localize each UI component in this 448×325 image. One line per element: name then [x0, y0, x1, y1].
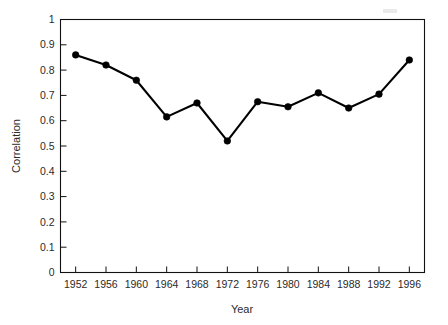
x-tick-label: 1988: [337, 278, 361, 290]
x-tick-label: 1992: [367, 278, 391, 290]
scan-artifact-speck: [383, 9, 397, 13]
x-tick-label: 1964: [155, 278, 179, 290]
y-axis-title: Correlation: [10, 119, 22, 173]
data-point-marker: [103, 62, 110, 69]
y-tick-label: 0.7: [40, 89, 55, 101]
x-tick-label: 1956: [94, 278, 118, 290]
data-point-marker: [194, 100, 201, 107]
x-tick-label: 1952: [64, 278, 88, 290]
data-point-marker: [224, 138, 231, 145]
x-tick-label: 1972: [216, 278, 240, 290]
y-tick-label: 1: [49, 13, 55, 25]
y-tick-label: 0.3: [40, 190, 55, 202]
y-tick-label: 0: [49, 266, 55, 278]
data-point-marker: [315, 90, 322, 97]
x-tick-label: 1960: [125, 278, 149, 290]
x-tick-label: 1976: [246, 278, 270, 290]
x-axis-title: Year: [231, 303, 254, 315]
data-point-marker: [254, 98, 261, 105]
x-tick-label: 1984: [307, 278, 331, 290]
y-tick-label: 0.6: [40, 114, 55, 126]
data-point-marker: [133, 77, 140, 84]
y-tick-label: 0.9: [40, 38, 55, 50]
data-point-marker: [72, 52, 79, 59]
data-point-marker: [406, 57, 413, 64]
chart-background: [0, 0, 448, 325]
data-point-marker: [376, 91, 383, 98]
data-point-marker: [163, 114, 170, 121]
x-tick-label: 1968: [185, 278, 209, 290]
data-point-marker: [345, 105, 352, 112]
x-tick-label: 1980: [276, 278, 300, 290]
x-tick-label: 1996: [398, 278, 422, 290]
data-point-marker: [285, 103, 292, 110]
y-tick-label: 0.1: [40, 241, 55, 253]
correlation-by-year-line-chart: 00.10.20.30.40.50.60.70.80.91 1952195619…: [0, 0, 448, 325]
y-tick-label: 0.8: [40, 64, 55, 76]
y-tick-label: 0.2: [40, 216, 55, 228]
y-tick-label: 0.4: [40, 165, 55, 177]
y-tick-label: 0.5: [40, 140, 55, 152]
